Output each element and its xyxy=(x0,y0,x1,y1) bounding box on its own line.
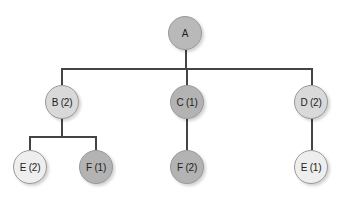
node-c: C (1) xyxy=(170,85,204,119)
node-d: D (2) xyxy=(294,85,328,119)
node-label: F (2) xyxy=(177,162,197,173)
edge-b-children xyxy=(30,137,96,150)
node-f-under-c: F (2) xyxy=(170,150,204,184)
node-e-under-d: E (1) xyxy=(294,150,328,184)
node-label: F (1) xyxy=(86,162,106,173)
node-label: A xyxy=(182,28,188,39)
node-label: C (1) xyxy=(176,97,197,108)
node-b: B (2) xyxy=(45,85,79,119)
node-label: B (2) xyxy=(52,97,73,108)
node-label: D (2) xyxy=(300,97,321,108)
node-e-under-b: E (2) xyxy=(13,150,47,184)
node-label: E (1) xyxy=(301,162,322,173)
node-f-under-b: F (1) xyxy=(79,150,113,184)
node-label: E (2) xyxy=(20,162,41,173)
node-a: A xyxy=(168,16,202,50)
